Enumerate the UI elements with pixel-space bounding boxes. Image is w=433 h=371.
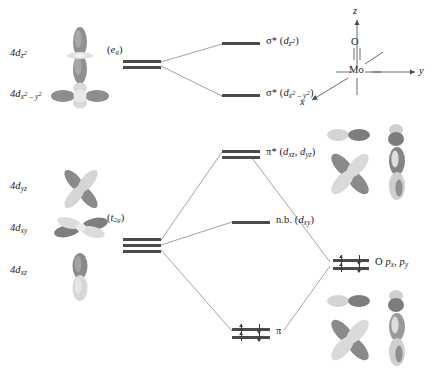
atom-label-molybdenum: Mo	[348, 64, 365, 75]
level-bar-oxygen-p-1	[333, 259, 369, 262]
metal-orbital-label-dyz: 4dyz	[10, 180, 27, 193]
level-bar-nonbonding	[232, 221, 270, 224]
mo-label-pi-star: π* (dxz, dyz)	[266, 146, 315, 159]
mo-diagram-canvas: 4dz2 4dx2 – y2 4dyz 4dxy 4dxz	[0, 0, 433, 371]
orbital-picture-dyz	[56, 165, 106, 213]
level-bar-sigma-star-dz2	[222, 42, 260, 45]
ligand-orbital-label-op: O px, py	[375, 256, 408, 269]
level-bar-sigma-star-dx2y2	[222, 94, 260, 97]
metal-orbital-label-dxz: 4dxz	[10, 264, 27, 277]
electron-op-2-up	[341, 263, 342, 272]
mo-label-nonbonding: n.b. (dxy)	[276, 214, 314, 227]
axis-label-x: x	[300, 96, 305, 107]
mo-label-sigma-star-dx2y2: σ* (dx2 – y2)	[266, 87, 314, 100]
level-bar-t2g-1	[123, 238, 161, 241]
electron-pi-2-up	[241, 332, 242, 341]
level-bar-pi-bonding-1	[232, 328, 270, 331]
symmetry-label-t2g: (t2g)	[107, 212, 124, 223]
overlap-picture-pi-d-dumbbell	[380, 312, 414, 368]
overlap-picture-pi-star-p-small	[384, 122, 408, 148]
level-bar-oxygen-p-2	[333, 267, 369, 270]
level-bar-pi-star-2	[222, 156, 260, 159]
metal-orbital-label-dz2: 4dz2	[10, 47, 27, 60]
metal-orbital-label-dxy: 4dxy	[10, 222, 27, 235]
overlap-picture-pi-star-p-horizontal	[326, 124, 372, 146]
mo-label-sigma-star-dz2: σ* (dz2)	[266, 35, 299, 48]
metal-orbital-label-dx2y2: 4dx2 – y2	[10, 88, 42, 101]
electron-pi-2-down	[259, 332, 260, 341]
orbital-picture-dz2	[58, 26, 102, 84]
overlap-picture-pi-d-clover	[322, 314, 378, 366]
overlap-picture-pi-star-d-clover	[322, 148, 378, 200]
orbital-picture-dxy	[52, 212, 110, 242]
symmetry-label-eg: (eg)	[107, 44, 122, 55]
orbital-picture-dx2y2	[50, 80, 110, 112]
orbital-picture-dxz	[63, 252, 97, 302]
overlap-picture-pi-p-horizontal	[326, 290, 372, 312]
overlap-picture-pi-p-small	[384, 288, 408, 314]
level-bar-pi-bonding-2	[232, 336, 270, 339]
mo-label-pi-bonding: π	[276, 325, 281, 336]
level-bar-eg-2	[123, 66, 161, 69]
level-bar-t2g-2	[123, 244, 161, 247]
level-bar-t2g-3	[123, 250, 161, 253]
atom-label-oxygen: O	[350, 36, 360, 47]
axis-label-y: y	[419, 65, 424, 76]
electron-op-2-down	[359, 263, 360, 272]
level-bar-pi-star-1	[222, 150, 260, 153]
axis-label-z: z	[353, 5, 357, 16]
level-bar-eg-1	[123, 60, 161, 63]
overlap-picture-pi-star-d-dumbbell	[380, 146, 414, 202]
